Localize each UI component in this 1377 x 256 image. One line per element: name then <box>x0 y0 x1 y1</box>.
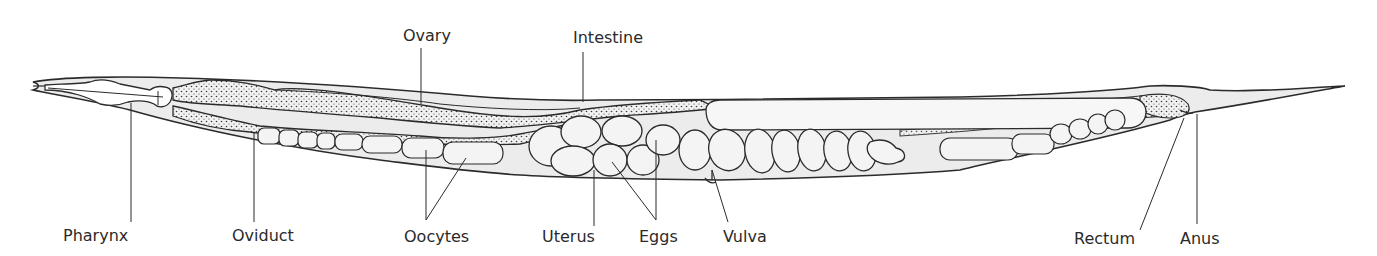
label-rectum: Rectum <box>1074 231 1135 247</box>
leader-rectum <box>1140 118 1184 230</box>
nematode-anatomy-diagram: Ovary Intestine Pharynx Oviduct Oocytes … <box>0 0 1377 256</box>
nematode-body-illustration <box>0 0 1377 256</box>
label-eggs: Eggs <box>639 229 678 245</box>
label-pharynx: Pharynx <box>63 228 128 244</box>
label-vulva: Vulva <box>723 229 767 245</box>
label-uterus: Uterus <box>542 229 595 245</box>
label-oocytes: Oocytes <box>404 229 469 245</box>
label-anus: Anus <box>1180 231 1220 247</box>
label-intestine: Intestine <box>573 30 643 46</box>
label-ovary: Ovary <box>403 28 451 44</box>
label-oviduct: Oviduct <box>232 228 294 244</box>
